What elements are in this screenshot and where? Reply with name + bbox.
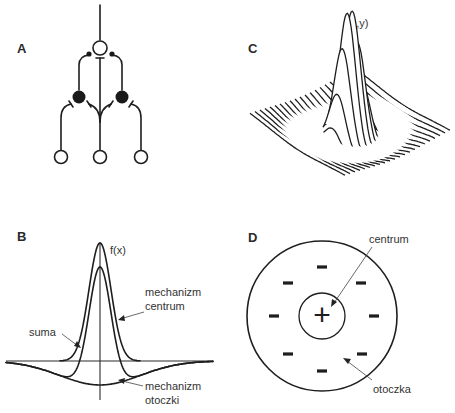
right-inhibitory-axon: [112, 55, 122, 90]
center-arrowhead-icon: [118, 315, 125, 321]
sum-label: suma: [29, 326, 57, 338]
input-cell-left-icon: [55, 151, 68, 164]
center-mechanism-label-2: centrum: [145, 300, 185, 312]
right-input-line: [131, 104, 141, 150]
surround-pointer-arrow: [347, 361, 372, 380]
left-input-line: [61, 104, 71, 150]
panel-c-label: C: [248, 41, 258, 56]
panel-b-label: B: [17, 229, 26, 244]
minus-sign-icon: [269, 314, 279, 317]
input-cell-center-icon: [94, 151, 107, 164]
output-cell-icon: [93, 41, 107, 55]
surround-label: otoczka: [373, 383, 412, 395]
minus-sign-icon: [283, 352, 293, 355]
axis-label-fx: f(x): [110, 244, 126, 256]
minus-sign-icon: [356, 281, 366, 284]
center-label: centrum: [369, 233, 409, 245]
panel-a: A: [17, 5, 148, 164]
left-inhibitory-synapse-icon: [86, 51, 91, 56]
panel-c: C f(x,y): [248, 11, 450, 175]
minus-sign-icon: [357, 352, 367, 355]
center-pointer-arrow: [334, 247, 372, 303]
panel-b: B f(x) mechanizm centrum suma mechanizm …: [6, 229, 213, 406]
right-inhibitory-synapse-icon: [109, 51, 114, 56]
left-interneuron-icon: [73, 91, 86, 104]
minus-sign-icon: [317, 369, 327, 372]
mexican-hat-mesh: [250, 11, 450, 175]
surround-mechanism-label-2: otoczki: [145, 394, 179, 406]
panel-d-label: D: [248, 230, 257, 245]
minus-sign-icon: [283, 281, 293, 284]
figure-canvas: A C f(x,y): [0, 0, 455, 413]
surround-label-arrow: [122, 381, 143, 386]
panel-a-label: A: [17, 41, 27, 56]
input-cell-right-icon: [135, 151, 148, 164]
panel-d: D + centrum otoczka: [247, 230, 412, 395]
right-interneuron-icon: [116, 91, 129, 104]
sum-arrowhead-icon: [74, 341, 81, 348]
center-mechanism-label-1: mechanizm: [145, 286, 201, 298]
left-inhibitory-axon: [79, 55, 89, 90]
minus-sign-icon: [369, 314, 379, 317]
minus-sign-icon: [317, 265, 327, 268]
center-plus-sign: +: [313, 298, 331, 331]
surround-mechanism-label-1: mechanizm: [145, 380, 201, 392]
